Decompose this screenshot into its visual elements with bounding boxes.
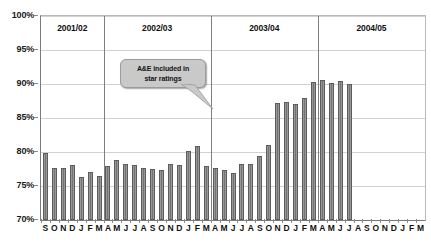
bar: [114, 160, 119, 220]
y-axis-tick-mark: [34, 117, 38, 118]
x-axis-tick-mark: [184, 219, 185, 223]
bar: [320, 80, 325, 220]
x-axis-tick-label: J: [186, 223, 191, 233]
x-axis-tick-label: D: [391, 223, 397, 233]
bar: [329, 83, 334, 220]
x-axis-tick-label: F: [88, 223, 93, 233]
y-axis-tick-mark: [34, 15, 38, 16]
x-axis-tick-label: A: [141, 223, 147, 233]
x-axis-tick-mark: [282, 219, 283, 223]
x-axis-tick-mark: [95, 219, 96, 223]
x-axis-tick-mark: [398, 219, 399, 223]
x-axis-tick-mark: [264, 219, 265, 223]
x-axis-tick-mark: [416, 219, 417, 223]
x-axis-tick-label: N: [167, 223, 173, 233]
x-axis-tick-label: A: [248, 223, 254, 233]
callout-line-1: A&E included in: [137, 65, 189, 72]
x-axis-tick-mark: [193, 219, 194, 223]
x-axis-tick-label: J: [338, 223, 343, 233]
x-axis-tick-label: M: [203, 223, 210, 233]
bar: [186, 151, 191, 220]
bar: [43, 153, 48, 220]
chart-container: 70%75%80%85%90%95%100% 2001/022002/03200…: [0, 0, 431, 247]
x-axis-tick-label: M: [310, 223, 317, 233]
x-axis-tick-mark: [77, 219, 78, 223]
bar: [239, 164, 244, 220]
x-axis-tick-mark: [59, 219, 60, 223]
x-axis-tick-label: M: [417, 223, 424, 233]
bar: [284, 102, 289, 220]
x-axis-tick-mark: [309, 219, 310, 223]
y-axis-tick-label: 100%: [12, 10, 34, 20]
x-axis-tick-mark: [139, 219, 140, 223]
x-axis-tick-mark: [112, 219, 113, 223]
y-axis-tick-label: 90%: [17, 78, 34, 88]
x-axis-tick-label: S: [364, 223, 370, 233]
x-axis-tick-label: J: [347, 223, 352, 233]
bar: [231, 173, 236, 220]
x-axis-tick-mark: [318, 219, 319, 223]
bar: [79, 177, 84, 220]
x-axis-tick-label: J: [79, 223, 84, 233]
x-axis-tick-label: O: [265, 223, 272, 233]
bar: [132, 165, 137, 220]
y-axis-tick-label: 75%: [17, 180, 34, 190]
y-axis-tick-label: 85%: [17, 112, 34, 122]
bar: [302, 98, 307, 220]
callout-tail-icon: [181, 84, 215, 110]
x-axis-tick-mark: [371, 219, 372, 223]
x-axis: SONDJFMAMJJASONDJFMAMJJASONDJFMAMJJASOND…: [40, 223, 426, 239]
x-axis-tick-label: O: [373, 223, 380, 233]
x-axis-tick-mark: [130, 219, 131, 223]
x-axis-tick-mark: [148, 219, 149, 223]
x-axis-tick-mark: [104, 219, 105, 223]
bar: [275, 103, 280, 220]
x-axis-tick-label: A: [355, 223, 361, 233]
x-axis-tick-mark: [327, 219, 328, 223]
x-axis-tick-label: M: [221, 223, 228, 233]
bar: [168, 164, 173, 220]
x-axis-tick-mark: [273, 219, 274, 223]
x-axis-tick-mark: [86, 219, 87, 223]
x-axis-tick-label: J: [231, 223, 236, 233]
x-axis-tick-mark: [237, 219, 238, 223]
bar: [52, 168, 57, 220]
x-axis-tick-label: M: [95, 223, 102, 233]
callout-text: A&E included in star ratings: [137, 64, 189, 83]
x-axis-tick-label: F: [195, 223, 200, 233]
x-axis-tick-mark: [166, 219, 167, 223]
bar: [159, 170, 164, 220]
x-axis-tick-mark: [121, 219, 122, 223]
x-axis-tick-label: D: [69, 223, 75, 233]
y-axis-tick-label: 70%: [17, 214, 34, 224]
bar: [61, 168, 66, 220]
y-axis-tick-mark: [34, 219, 38, 220]
x-axis-tick-label: F: [302, 223, 307, 233]
x-axis-tick-label: A: [319, 223, 325, 233]
x-axis-tick-mark: [362, 219, 363, 223]
plot-area: 2001/022002/032003/042004/05 A&E include…: [40, 15, 426, 221]
x-axis-tick-label: J: [123, 223, 128, 233]
x-axis-tick-label: S: [150, 223, 156, 233]
bar: [123, 164, 128, 220]
x-axis-tick-label: M: [113, 223, 120, 233]
bar: [222, 170, 227, 220]
y-axis-tick-label: 95%: [17, 44, 34, 54]
x-axis-tick-mark: [246, 219, 247, 223]
x-axis-tick-mark: [380, 219, 381, 223]
bar: [338, 81, 343, 220]
x-axis-tick-label: A: [212, 223, 218, 233]
x-axis-tick-label: O: [158, 223, 165, 233]
x-axis-tick-mark: [291, 219, 292, 223]
x-axis-tick-label: J: [293, 223, 298, 233]
x-axis-tick-mark: [68, 219, 69, 223]
x-axis-tick-label: N: [275, 223, 281, 233]
x-axis-tick-mark: [389, 219, 390, 223]
bar: [257, 156, 262, 220]
x-axis-tick-mark: [50, 219, 51, 223]
x-axis-tick-mark: [229, 219, 230, 223]
x-axis-tick-mark: [220, 219, 221, 223]
y-axis-tick-mark: [34, 49, 38, 50]
x-axis-tick-label: J: [240, 223, 245, 233]
x-axis-tick-label: D: [284, 223, 290, 233]
